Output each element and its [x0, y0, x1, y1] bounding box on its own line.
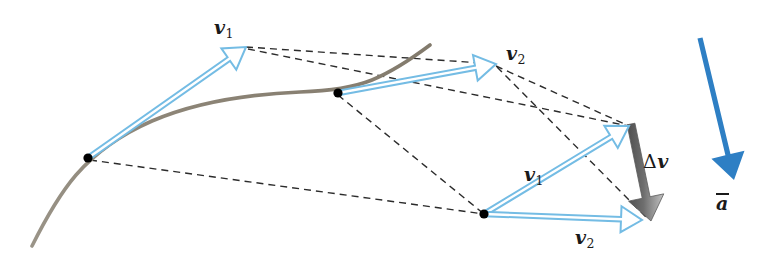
path-point-2 [333, 88, 342, 97]
vector-v1-in-triangle [483, 126, 629, 216]
symbol-base: v [657, 150, 668, 172]
dash-v2tip-to-v1tip-triangle [496, 66, 629, 126]
delta-v-group [627, 123, 664, 221]
symbol-base: v [214, 16, 225, 38]
vector-triangle-origin [479, 209, 488, 218]
symbol-subscript: 1 [226, 26, 234, 41]
symbol-subscript: 2 [518, 52, 526, 67]
construction-lines-group [90, 47, 648, 219]
vector-v2-on-path [338, 55, 496, 95]
delta-velocity-label: Δv [643, 152, 668, 171]
dash-point2-to-origin [338, 95, 484, 214]
dash-v2tip-upper-to-v2tip-triangle [497, 67, 648, 219]
vector-v1-on-path [87, 47, 246, 160]
vector-delta-v [627, 123, 664, 221]
velocity-2-upper-label: v2 [506, 44, 526, 67]
overbar-wrapper: a [716, 193, 728, 213]
symbol-base: v [524, 163, 535, 185]
symbol-base: a [716, 192, 728, 214]
symbol-base: v [506, 42, 517, 64]
figure-canvas: v1v2v1v2Δva [0, 0, 765, 272]
path-points-group [83, 88, 488, 218]
vector-average-acceleration [697, 37, 744, 180]
velocity-1-upper-label: v1 [214, 18, 234, 41]
path-point-1 [83, 153, 92, 162]
velocity-2-lower-label: v2 [575, 228, 595, 251]
average-acceleration-label: a [716, 193, 728, 213]
velocity-vectors-group [87, 47, 642, 232]
symbol-base: v [575, 226, 586, 248]
symbol-subscript: 2 [587, 236, 595, 251]
vector-diagram-svg [0, 0, 765, 272]
symbol-subscript: 1 [536, 173, 544, 188]
velocity-1-lower-label: v1 [524, 165, 544, 188]
acceleration-group [697, 37, 744, 180]
vector-v2-in-triangle [484, 206, 642, 232]
trajectory-group [32, 45, 430, 246]
delta-symbol: Δ [643, 150, 657, 172]
particle-path [32, 45, 430, 246]
dash-point1-to-origin [90, 160, 484, 214]
